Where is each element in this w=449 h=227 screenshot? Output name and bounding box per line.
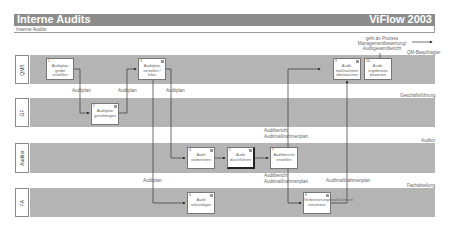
activity-box[interactable]: 3Auditplan verteilen / Infos (138, 58, 166, 80)
document-icon (210, 194, 213, 197)
activity-label: Verbesserungsmaßnahmen umsetzen (304, 198, 330, 207)
activity-number: 6 (189, 193, 191, 197)
activity-box[interactable]: 1Auditplan grobe erstellen (46, 58, 74, 80)
activity-number: 9 (335, 59, 337, 63)
activity-label: Auditplan verteilen / Infos (139, 64, 165, 78)
document-icon (210, 149, 213, 152)
activity-number: 5 (229, 148, 231, 152)
activity-box[interactable]: 4Audit vorbereiten (187, 147, 215, 169)
activity-box[interactable]: 10Audit-ergebnisse bewerten (364, 58, 392, 80)
flow-label: Auditmaßnahmenplan (264, 134, 308, 139)
document-icon (161, 60, 164, 63)
activity-label: Audit-maßnahmen überwachen (334, 64, 360, 78)
activity-box[interactable]: 7Auditbericht erstellen (270, 147, 298, 169)
activity-label: Audit-ergebnisse bewerten (365, 64, 391, 78)
document-icon (249, 149, 252, 152)
flow-label: Auditplan (166, 88, 185, 93)
activity-box[interactable]: 5Audit durchführen (227, 147, 255, 169)
flow-label: Auditplan (118, 88, 137, 93)
flow-label: Auditmaßnahmenplan (326, 178, 370, 183)
activity-box[interactable]: 6Audit ankündigen (187, 192, 215, 214)
activity-box[interactable]: 2Auditplan genehmigen (91, 103, 119, 125)
flow-label: Auditbericht (264, 128, 288, 133)
activity-number: 4 (189, 148, 191, 152)
flow-label: Auditplan (72, 88, 91, 93)
flow-label: Auditbericht (264, 173, 288, 178)
activity-label: Auditplan genehmigen (92, 109, 118, 118)
activity-label: Auditbericht erstellen (271, 153, 297, 162)
activity-label: Auditplan grobe erstellen (47, 64, 73, 78)
flow-connectors (0, 0, 449, 227)
flow-label: Auditplan (143, 178, 162, 183)
activity-label: Audit durchführen (228, 153, 253, 162)
document-icon (114, 105, 117, 108)
activity-label: Audit vorbereiten (188, 153, 214, 162)
activity-number: 3 (140, 59, 142, 63)
flow-label: Auditmaßnahmenplan (264, 179, 308, 184)
document-icon (356, 60, 359, 63)
activity-box[interactable]: 8Verbesserungsmaßnahmen umsetzen (303, 192, 331, 214)
activity-label: Audit ankündigen (188, 198, 214, 207)
activity-box[interactable]: 9Audit-maßnahmen überwachen (333, 58, 361, 80)
activity-number: 2 (93, 104, 95, 108)
activity-number: 1 (48, 59, 50, 63)
activity-number: 10 (366, 59, 370, 63)
